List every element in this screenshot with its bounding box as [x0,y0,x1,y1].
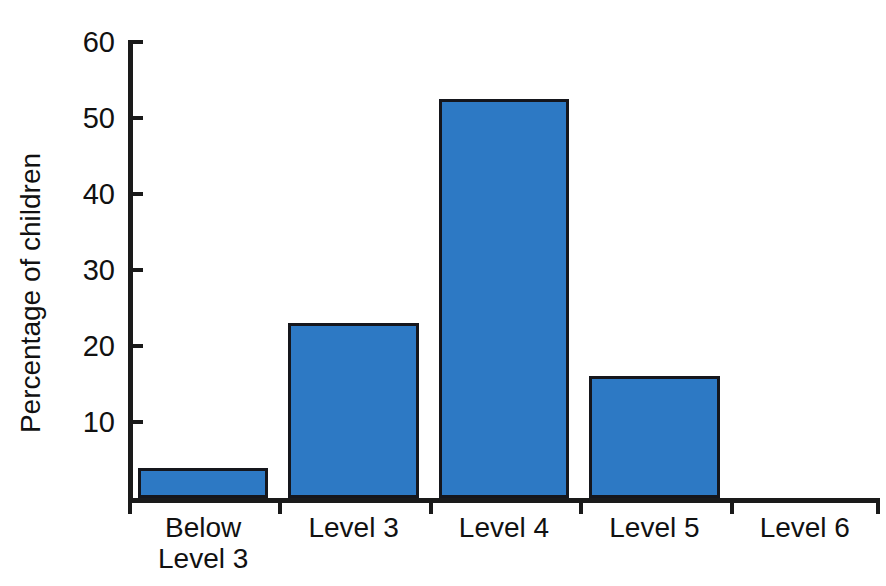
x-axis-line [128,498,880,503]
y-tick-label: 40 [83,178,115,211]
y-tick-mark [128,116,143,120]
y-tick-mark [128,344,143,348]
x-tick-label: Below Level 3 [128,512,278,575]
y-tick-mark [128,40,143,44]
y-tick-mark [128,192,143,196]
y-tick-mark [128,268,143,272]
plot-area: 102030405060 Below Level 3Level 3Level 4… [128,42,880,498]
bar [589,376,719,498]
x-tick-label: Level 5 [579,512,729,543]
x-tick-label: Level 3 [278,512,428,543]
y-tick-label: 60 [83,26,115,59]
y-tick-label: 10 [83,406,115,439]
x-tick-label: Level 4 [429,512,579,543]
y-tick-label: 50 [83,102,115,135]
y-tick-mark [128,420,143,424]
bar [138,468,268,498]
y-axis-title: Percentage of children [0,0,62,586]
x-tick-label: Level 6 [730,512,880,543]
bar [288,323,418,498]
y-tick-label: 20 [83,330,115,363]
bar-chart: Percentage of children 102030405060 Belo… [0,0,886,586]
bar [439,99,569,498]
y-tick-label: 30 [83,254,115,287]
